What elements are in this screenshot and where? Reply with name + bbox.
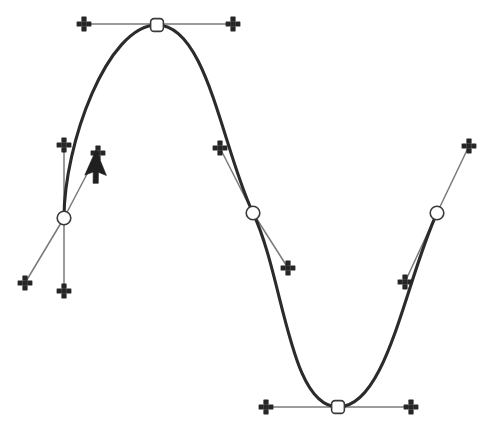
anchor-point-1[interactable] — [57, 211, 71, 225]
anchor-point-5[interactable] — [430, 206, 444, 220]
anchor-point-3[interactable] — [246, 206, 260, 220]
anchor-point-2[interactable] — [151, 19, 164, 32]
anchor-point-4[interactable] — [332, 401, 345, 414]
vector-editor-canvas[interactable] — [0, 0, 494, 429]
path-editing-viewport[interactable] — [0, 0, 494, 429]
